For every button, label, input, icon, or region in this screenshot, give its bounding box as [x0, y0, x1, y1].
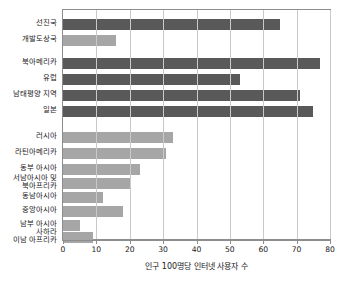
category-label: 러시아: [0, 132, 57, 140]
tick-label-30: 30: [151, 245, 175, 254]
category-label: 사하라 이남 아프리카: [0, 228, 57, 245]
tick-label-10: 10: [84, 245, 108, 254]
tick-40: [197, 240, 198, 244]
bar-8: [63, 164, 140, 175]
bar-11: [63, 206, 123, 217]
gridline-70: [297, 10, 298, 239]
category-label: 라틴아메리카: [0, 148, 57, 156]
gridline-30: [163, 10, 164, 239]
category-label: 일본: [0, 106, 57, 114]
tick-label-50: 50: [218, 245, 242, 254]
tick-70: [297, 240, 298, 244]
category-label: 북아메리카: [0, 58, 57, 66]
x-axis-title: 인구 100명당 인터넷 사용자 수: [62, 260, 331, 271]
category-label: 선진국: [0, 19, 57, 27]
category-label: 동부 아시아: [0, 164, 57, 172]
tick-label-80: 80: [318, 245, 342, 254]
category-label: 서남아시아 및 북아프리카: [0, 174, 57, 191]
tick-30: [163, 240, 164, 244]
bar-13: [63, 232, 93, 243]
bar-12: [63, 220, 80, 231]
tick-50: [230, 240, 231, 244]
category-label: 개발도상국: [0, 35, 57, 43]
bar-7: [63, 148, 166, 159]
gridline-80: [330, 10, 331, 239]
bar-4: [63, 90, 300, 101]
gridline-20: [130, 10, 131, 239]
tick-10: [96, 240, 97, 244]
category-axis-labels: 선진국개발도상국북아메리카유럽남태평양 지역일본러시아라틴아메리카동부 아시아서…: [0, 9, 60, 240]
category-label: 중앙아시아: [0, 206, 57, 214]
tick-80: [330, 240, 331, 244]
tick-label-0: 0: [51, 245, 75, 254]
gridline-50: [230, 10, 231, 239]
bar-2: [63, 58, 320, 69]
tick-20: [130, 240, 131, 244]
plot-area: [62, 9, 331, 240]
tick-label-20: 20: [118, 245, 142, 254]
internet-users-bar-chart: 선진국개발도상국북아메리카유럽남태평양 지역일본러시아라틴아메리카동부 아시아서…: [0, 0, 342, 281]
category-label: 동남아시아: [0, 192, 57, 200]
gridline-40: [197, 10, 198, 239]
tick-60: [263, 240, 264, 244]
category-label: 남태평양 지역: [0, 90, 57, 98]
tick-label-40: 40: [185, 245, 209, 254]
tick-label-70: 70: [285, 245, 309, 254]
bar-1: [63, 35, 116, 46]
bar-5: [63, 106, 313, 117]
bar-3: [63, 74, 240, 85]
gridline-10: [96, 10, 97, 239]
category-label: 유럽: [0, 74, 57, 82]
tick-0: [63, 240, 64, 244]
tick-label-60: 60: [251, 245, 275, 254]
bar-6: [63, 132, 173, 143]
gridline-60: [263, 10, 264, 239]
